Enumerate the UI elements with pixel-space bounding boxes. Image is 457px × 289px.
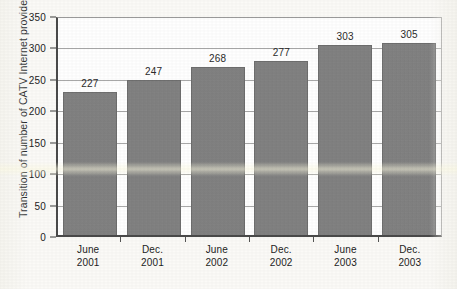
x-label-year: 2002 [249, 256, 313, 269]
y-tick-mark-150 [50, 142, 56, 143]
bar-slot-dec-2001: 247 [122, 18, 186, 235]
y-tick-label-50: 50 [34, 200, 46, 211]
y-tick-mark-200 [50, 111, 56, 112]
x-label-dec-2002: Dec. 2002 [249, 243, 313, 269]
bar-slot-dec-2002: 277 [249, 18, 313, 235]
y-tick-label-300: 300 [29, 43, 46, 54]
x-label-month: June [334, 244, 356, 255]
y-tick-label-350: 350 [29, 12, 46, 23]
bar-june-2003: 303 [318, 45, 372, 236]
bar-slot-june-2002: 268 [186, 18, 250, 235]
bar-dec-2002: 277 [254, 61, 308, 235]
x-label-year: 2003 [378, 256, 442, 269]
x-label-month: Dec. [399, 244, 420, 255]
y-tick-label-200: 200 [29, 106, 46, 117]
x-tick-mark-2 [185, 237, 186, 242]
x-tick-mark-3 [249, 237, 250, 242]
x-label-month: June [206, 244, 228, 255]
bar-dec-2001: 247 [127, 80, 181, 235]
x-label-month: Dec. [142, 244, 163, 255]
x-tick-mark-4 [313, 237, 314, 242]
y-tick-mark-350 [50, 17, 56, 18]
y-tick-label-100: 100 [29, 169, 46, 180]
y-tick-mark-0 [50, 237, 56, 238]
y-axis: Transition of number of CATV Internet pr… [0, 0, 56, 289]
bars-layer: 227 247 268 277 303 [58, 18, 441, 235]
bar-june-2001: 227 [63, 92, 117, 235]
plot-area: 227 247 268 277 303 [56, 17, 442, 237]
bar-june-2002: 268 [191, 67, 245, 236]
y-tick-label-0: 0 [40, 232, 46, 243]
x-label-year: 2002 [185, 256, 249, 269]
bar-value-dec-2002: 277 [273, 47, 290, 58]
y-axis-title: Transition of number of CATV Internet pr… [17, 18, 29, 218]
x-label-dec-2001: Dec. 2001 [120, 243, 184, 269]
x-label-year: 2001 [56, 256, 120, 269]
y-tick-mark-300 [50, 48, 56, 49]
bar-value-dec-2001: 247 [145, 66, 162, 77]
bar-value-june-2002: 268 [209, 53, 226, 64]
bar-slot-june-2001: 227 [58, 18, 122, 235]
bar-value-dec-2003: 305 [400, 29, 417, 40]
x-label-june-2003: June 2003 [313, 243, 377, 269]
x-label-dec-2003: Dec. 2003 [378, 243, 442, 269]
y-tick-label-250: 250 [29, 74, 46, 85]
y-tick-label-150: 150 [29, 137, 46, 148]
x-label-month: June [77, 244, 99, 255]
x-label-june-2002: June 2002 [185, 243, 249, 269]
y-tick-mark-100 [50, 174, 56, 175]
bar-value-june-2003: 303 [337, 31, 354, 42]
x-tick-mark-5 [378, 237, 379, 242]
x-label-year: 2003 [313, 256, 377, 269]
y-tick-mark-250 [50, 79, 56, 80]
y-tick-mark-50 [50, 205, 56, 206]
x-axis: June 2001 Dec. 2001 June 2002 Dec. 2002 … [56, 243, 442, 269]
bar-slot-june-2003: 303 [313, 18, 377, 235]
chart-figure: Transition of number of CATV Internet pr… [0, 0, 457, 289]
bar-slot-dec-2003: 305 [377, 18, 441, 235]
x-label-june-2001: June 2001 [56, 243, 120, 269]
bar-value-june-2001: 227 [81, 78, 98, 89]
bar-dec-2003: 305 [382, 43, 436, 235]
x-label-month: Dec. [271, 244, 292, 255]
x-tick-mark-1 [120, 237, 121, 242]
x-label-year: 2001 [120, 256, 184, 269]
